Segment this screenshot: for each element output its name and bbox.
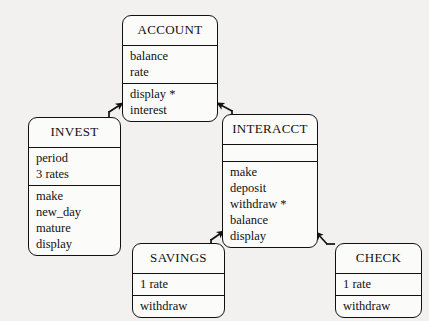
class-attributes-section-check: 1 rate — [336, 274, 421, 296]
class-title-section-savings: SAVINGS — [133, 244, 224, 274]
class-operation: display * — [130, 86, 212, 102]
class-attribute: period — [36, 150, 115, 166]
class-title-section-invest: INVEST — [29, 118, 120, 148]
class-operation: balance — [230, 212, 312, 228]
class-operation: withdraw — [140, 298, 219, 314]
class-title-section-account: ACCOUNT — [123, 16, 217, 46]
class-attributes-section-interacct — [223, 145, 317, 162]
class-attribute: 1 rate — [140, 276, 219, 292]
class-operations-section-interacct: make deposit withdraw * balance display — [223, 162, 317, 247]
class-box-invest[interactable]: INVEST period 3 rates make new_day matur… — [28, 117, 121, 256]
class-operation: make — [230, 164, 312, 180]
class-operation: make — [36, 188, 115, 204]
class-box-interacct[interactable]: INTERACCT make deposit withdraw * balanc… — [222, 114, 318, 248]
class-operations-section-invest: make new_day mature display — [29, 186, 120, 255]
class-attribute: 3 rates — [36, 166, 115, 182]
class-box-savings[interactable]: SAVINGS 1 rate withdraw — [132, 243, 225, 318]
class-name-savings: SAVINGS — [133, 246, 224, 270]
class-operation: new_day — [36, 204, 115, 220]
class-attributes-section-account: balance rate — [123, 46, 217, 84]
class-operation: withdraw * — [230, 196, 312, 212]
edge-check-to-interacct — [316, 232, 335, 244]
class-box-account[interactable]: ACCOUNT balance rate display * interest — [122, 15, 218, 122]
class-attribute: balance — [130, 48, 212, 64]
class-name-invest: INVEST — [29, 120, 120, 144]
class-attribute: rate — [130, 64, 212, 80]
class-operation: display — [36, 236, 115, 252]
edge-interacct-to-account — [217, 103, 232, 114]
class-operations-section-account: display * interest — [123, 84, 217, 121]
class-title-section-interacct: INTERACCT — [223, 115, 317, 145]
class-operation: withdraw — [343, 298, 416, 314]
edge-invest-to-account — [109, 103, 123, 117]
class-attributes-section-invest: period 3 rates — [29, 148, 120, 186]
class-operations-section-savings: withdraw — [133, 296, 224, 317]
class-title-section-check: CHECK — [336, 244, 421, 274]
class-name-check: CHECK — [336, 246, 421, 270]
class-operation: deposit — [230, 180, 312, 196]
class-name-interacct: INTERACCT — [223, 117, 317, 141]
class-attributes-section-savings: 1 rate — [133, 274, 224, 296]
class-operations-section-check: withdraw — [336, 296, 421, 317]
class-operation: interest — [130, 102, 212, 118]
class-attribute: 1 rate — [343, 276, 416, 292]
class-diagram-canvas: ACCOUNT balance rate display * interest … — [0, 0, 429, 321]
class-name-account: ACCOUNT — [123, 18, 217, 42]
class-operation: mature — [36, 220, 115, 236]
class-box-check[interactable]: CHECK 1 rate withdraw — [335, 243, 422, 318]
class-operation: display — [230, 228, 312, 244]
